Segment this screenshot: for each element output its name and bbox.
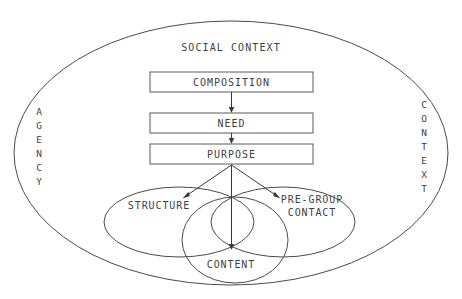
composition-label: COMPOSITION	[193, 77, 270, 88]
structure-label: STRUCTURE	[128, 200, 190, 211]
agency-label-char-1: A	[36, 106, 42, 117]
context-label-char-6: X	[421, 169, 427, 180]
context-label-char-3: N	[421, 127, 427, 138]
agency-label: AGENCY	[36, 106, 42, 187]
context-label: CONTEXT	[421, 99, 427, 194]
pre-group-contact-line-2: CONTACT	[288, 207, 336, 218]
diagram-title: SOCIAL CONTEXT	[181, 42, 281, 53]
box-need: NEED	[150, 113, 313, 133]
agency-label-char-5: C	[36, 162, 42, 173]
arrow-composition-to-need	[229, 92, 234, 113]
context-label-char-2: O	[421, 113, 427, 124]
arrow-purpose-to-pre-group-contact	[232, 165, 281, 199]
social-context-diagram: SOCIAL CONTEXT AGENCY CONTEXT COMPOSITIO…	[0, 0, 462, 299]
arrow-purpose-to-structure	[183, 165, 232, 199]
agency-label-char-3: E	[36, 134, 42, 145]
pre-group-contact-line-1: PRE-GROUP	[281, 194, 343, 205]
context-label-char-7: T	[421, 183, 427, 194]
agency-label-char-4: N	[36, 148, 42, 159]
need-label: NEED	[217, 118, 245, 129]
context-label-char-1: C	[421, 99, 427, 110]
content-ellipse	[182, 197, 288, 283]
context-label-char-4: T	[421, 141, 427, 152]
arrow-purpose-to-content	[229, 165, 234, 250]
context-label-char-5: E	[421, 155, 427, 166]
agency-label-char-2: G	[36, 120, 42, 131]
pre-group-contact-label: PRE-GROUP CONTACT	[281, 194, 343, 218]
agency-label-char-6: Y	[36, 176, 42, 187]
box-composition: COMPOSITION	[150, 72, 313, 92]
purpose-label: PURPOSE	[207, 149, 256, 160]
content-label: CONTENT	[207, 259, 255, 270]
arrow-need-to-purpose	[229, 133, 234, 144]
box-purpose: PURPOSE	[150, 144, 313, 164]
diagram-canvas: SOCIAL CONTEXT AGENCY CONTEXT COMPOSITIO…	[0, 0, 462, 299]
